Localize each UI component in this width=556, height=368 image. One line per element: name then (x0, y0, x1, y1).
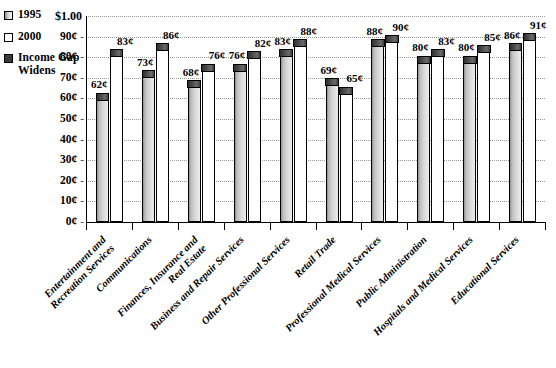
bar-1995: 73¢ (142, 72, 155, 222)
x-axis-label-line: Retail Trade (292, 234, 338, 280)
bar-group: 69¢65¢ (326, 16, 354, 222)
y-axis-tick-70: 70¢ - (22, 72, 84, 82)
y-axis-tick-20: 20¢ - (22, 175, 84, 185)
bar-group: 80¢83¢ (417, 16, 445, 222)
bar-value-label: 88¢ (301, 26, 318, 37)
bar-value-label: 82¢ (255, 38, 272, 49)
bar-group: 83¢88¢ (280, 16, 308, 222)
x-axis-label: Professional Medical Services (283, 234, 383, 334)
bar-chart: 1995 2000 Income Gap Widens $1.00 90¢ -8… (0, 0, 556, 368)
bar-group: 62¢83¢ (96, 16, 124, 222)
bar-1995: 69¢ (326, 80, 339, 222)
income-gap-cap (279, 49, 293, 57)
y-axis-tick-60: 60¢ - (22, 92, 84, 102)
bar-value-label: 65¢ (347, 73, 364, 84)
income-gap-cap (463, 56, 477, 64)
bar-1995: 88¢ (371, 41, 384, 222)
income-gap-cap (477, 45, 491, 53)
income-gap-cap (96, 93, 110, 101)
income-gap-cap (156, 43, 170, 51)
bar-value-label: 80¢ (412, 42, 429, 53)
income-gap-cap (247, 51, 261, 59)
bar-group: 73¢86¢ (142, 16, 170, 222)
bar-value-label: 90¢ (392, 22, 409, 33)
bar-value-label: 86¢ (504, 30, 521, 41)
bar-2000: 90¢ (385, 37, 398, 222)
plot-area: 62¢83¢73¢86¢68¢76¢76¢82¢83¢88¢69¢65¢88¢9… (86, 16, 545, 222)
bar-1995: 83¢ (280, 51, 293, 222)
bar-group: 68¢76¢ (188, 16, 216, 222)
bar-2000: 76¢ (202, 65, 215, 222)
legend-swatch-1995 (4, 11, 13, 20)
bar-1995: 80¢ (463, 57, 476, 222)
y-axis-tick-50: 50¢ - (22, 113, 84, 123)
bar-2000: 88¢ (294, 41, 307, 222)
bar-value-label: 62¢ (91, 79, 108, 90)
bar-value-label: 91¢ (530, 20, 547, 31)
y-axis-tick-80: 80¢ - (22, 51, 84, 61)
x-axis-label: Other Professional Services (199, 234, 292, 327)
bar-group: 86¢91¢ (509, 16, 537, 222)
x-axis-label-line: Other Professional Services (199, 234, 292, 327)
bar-value-label: 80¢ (458, 42, 475, 53)
bar-value-label: 68¢ (183, 67, 200, 78)
bar-1995: 76¢ (234, 65, 247, 222)
x-axis-category-labels: Entertainment andRecreation ServicesComm… (0, 228, 556, 368)
bar-value-label: 86¢ (163, 30, 180, 41)
x-axis-label: Retail Trade (292, 234, 338, 280)
bar-value-label: 73¢ (137, 57, 154, 68)
income-gap-cap (110, 49, 124, 57)
income-gap-cap (187, 80, 201, 88)
income-gap-cap (325, 78, 339, 86)
bar-2000: 65¢ (340, 88, 353, 222)
income-gap-cap (339, 87, 353, 95)
y-axis-tick-0: 0¢ - (22, 216, 84, 226)
bar-value-label: 76¢ (209, 50, 226, 61)
income-gap-cap (293, 39, 307, 47)
income-gap-cap (509, 43, 523, 51)
x-axis-label-line: Professional Medical Services (283, 234, 383, 334)
income-gap-cap (233, 64, 247, 72)
bar-value-label: 85¢ (484, 32, 501, 43)
bar-1995: 62¢ (96, 94, 109, 222)
bar-2000: 91¢ (523, 35, 536, 222)
bar-group: 80¢85¢ (463, 16, 491, 222)
income-gap-cap (371, 39, 385, 47)
income-gap-cap (417, 56, 431, 64)
bar-1995: 80¢ (417, 57, 430, 222)
bar-value-label: 76¢ (229, 50, 246, 61)
legend-swatch-2000 (4, 33, 13, 42)
bar-1995: 68¢ (188, 82, 201, 222)
income-gap-cap (385, 35, 399, 43)
bar-value-label: 83¢ (275, 36, 292, 47)
bar-value-label: 83¢ (438, 36, 455, 47)
x-axis-label: Entertainment andRecreation Services (40, 234, 117, 311)
income-gap-cap (431, 49, 445, 57)
bar-2000: 83¢ (431, 51, 444, 222)
bar-1995: 86¢ (509, 45, 522, 222)
bar-group: 76¢82¢ (234, 16, 262, 222)
income-gap-cap (201, 64, 215, 72)
bar-value-label: 88¢ (366, 26, 383, 37)
bar-value-label: 83¢ (117, 36, 134, 47)
bar-2000: 82¢ (248, 53, 261, 222)
x-axis-label-line: Finances, Insurance and (115, 234, 200, 319)
y-axis-tick-40: 40¢ - (22, 134, 84, 144)
bar-2000: 85¢ (477, 47, 490, 222)
y-axis-tick-90: 90¢ - (22, 31, 84, 41)
legend-swatch-income-gap (4, 54, 13, 63)
y-axis-tick-30: 30¢ - (22, 154, 84, 164)
bar-value-label: 69¢ (321, 65, 338, 76)
income-gap-cap (142, 70, 156, 78)
y-axis-tick-10: 10¢ - (22, 195, 84, 205)
bar-2000: 86¢ (156, 45, 169, 222)
bar-2000: 83¢ (110, 51, 123, 222)
income-gap-cap (523, 33, 537, 41)
y-axis-line (86, 16, 87, 223)
bar-group: 88¢90¢ (371, 16, 399, 222)
